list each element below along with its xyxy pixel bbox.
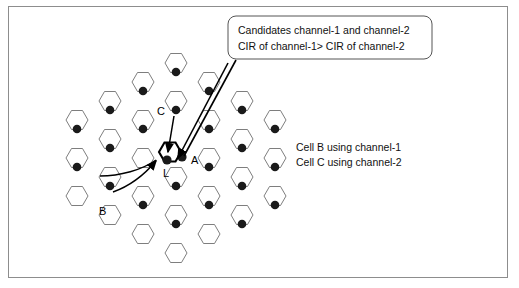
arrow-from-cell-c — [168, 116, 174, 152]
hex-cell — [198, 225, 220, 244]
cell-dot — [139, 201, 148, 210]
cell-dot — [205, 163, 214, 172]
annotation-line-2: Cell C using channel-2 — [296, 156, 402, 168]
cell-dot-c — [172, 106, 181, 115]
label-cell-b: B — [99, 205, 106, 217]
label-cell-l: L — [163, 167, 169, 179]
hex-cell — [132, 149, 154, 168]
cell-dot — [271, 163, 280, 172]
hex-cell — [132, 225, 154, 244]
cell-dot — [139, 125, 148, 134]
callout-leader-line-2 — [184, 60, 236, 156]
hexagon-grid — [66, 54, 286, 263]
cell-dot — [139, 87, 148, 96]
arrow-from-cell-b-2 — [100, 160, 156, 176]
cell-dot — [172, 182, 181, 191]
cell-dot — [73, 125, 82, 134]
cell-dot — [172, 220, 181, 229]
cell-dot — [271, 201, 280, 210]
hex-cell — [66, 187, 88, 206]
callout-line-2: CIR of channel-1> CIR of channel-2 — [238, 40, 405, 52]
hex-cell — [165, 244, 187, 263]
annotation-line-1: Cell B using channel-1 — [296, 141, 401, 153]
cell-dot-l — [162, 155, 171, 164]
label-cell-c: C — [157, 105, 165, 117]
cell-dot — [238, 106, 247, 115]
cell-dot — [238, 220, 247, 229]
cell-dot — [106, 106, 115, 115]
cell-dot — [271, 125, 280, 134]
callout-leader-line — [178, 63, 228, 158]
cell-dot — [106, 144, 115, 153]
cell-dot — [73, 163, 82, 172]
cell-dot — [238, 144, 247, 153]
cell-dot — [205, 201, 214, 210]
cell-dot — [172, 68, 181, 77]
cell-dot-b — [106, 182, 115, 191]
callout-line-1: Candidates channel-1 and channel-2 — [238, 24, 410, 36]
cell-dot — [205, 125, 214, 134]
figure-root: Candidates channel-1 and channel-2 CIR o… — [0, 0, 519, 288]
cell-dot — [238, 182, 247, 191]
callout-box — [228, 16, 432, 59]
label-cell-a: A — [191, 154, 199, 166]
cellular-reuse-diagram: Candidates channel-1 and channel-2 CIR o… — [0, 0, 519, 288]
